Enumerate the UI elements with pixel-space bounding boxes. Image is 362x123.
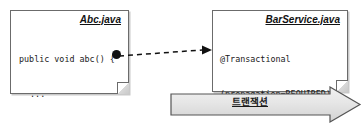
page-fold-corner-icon (117, 82, 129, 94)
code-line: @Transactional (220, 54, 331, 66)
note-card-caller: Abc.java public void abc() { ... barServ… (10, 10, 129, 94)
method-call-arrow-icon (118, 44, 214, 66)
code-line: public void abc() { (19, 54, 116, 66)
code-line: ... (19, 89, 116, 101)
note-card-callee: BarService.java @Transactional (propagat… (212, 10, 348, 92)
code-block-caller: public void abc() { ... barService.bar()… (19, 31, 116, 123)
note-title-caller: Abc.java (80, 14, 121, 26)
transaction-scope-label: 트랜잭션 (170, 96, 330, 108)
diagram-canvas: Abc.java public void abc() { ... barServ… (0, 0, 362, 123)
note-title-callee: BarService.java (265, 14, 340, 26)
